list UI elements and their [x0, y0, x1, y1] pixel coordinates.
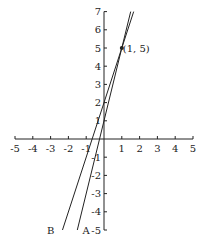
y-tick-label: 7 [95, 6, 101, 17]
point-label: (1, 5) [123, 43, 150, 54]
y-tick-label: -4 [91, 206, 101, 217]
x-tick-label: 1 [119, 143, 125, 154]
x-tick-label: 2 [136, 143, 142, 154]
y-tick-label: -2 [91, 170, 101, 181]
x-tick-label: 4 [172, 143, 178, 154]
y-tick-label: 6 [95, 24, 101, 35]
x-tick-label: -5 [10, 143, 20, 154]
y-tick-label: 3 [95, 79, 101, 90]
y-tick-label: 4 [95, 61, 101, 72]
x-tick-label: 3 [154, 143, 160, 154]
chart: -5-4-3-2-112345-5-4-3-2-11234567 (1, 5)A… [0, 0, 202, 251]
y-tick-label: 2 [95, 97, 101, 108]
x-tick-label: -1 [81, 143, 91, 154]
axes: -5-4-3-2-112345-5-4-3-2-11234567 [10, 6, 196, 235]
y-tick-label: -5 [91, 225, 101, 236]
x-tick-label: 5 [190, 143, 196, 154]
line-label-b: B [47, 225, 54, 236]
x-tick-label: -4 [28, 143, 38, 154]
x-tick-label: -2 [64, 143, 74, 154]
y-tick-label: -3 [91, 188, 101, 199]
line-label-a: A [82, 225, 91, 236]
y-tick-label: 5 [95, 43, 101, 54]
x-tick-label: -3 [46, 143, 56, 154]
